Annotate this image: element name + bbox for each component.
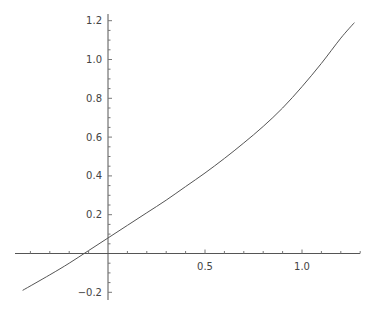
y-tick-label: 1.0	[86, 54, 102, 65]
series	[23, 23, 355, 291]
chart: 0.51.0−0.20.20.40.60.81.01.2	[0, 0, 372, 309]
y-tick-label: 1.2	[86, 15, 102, 26]
y-tick-label: 0.4	[86, 170, 102, 181]
axes	[15, 14, 360, 300]
ticks	[30, 21, 360, 293]
y-tick-label: 0.8	[86, 93, 102, 104]
y-tick-label: 0.2	[86, 209, 102, 220]
tick-labels: 0.51.0−0.20.20.40.60.81.01.2	[78, 15, 310, 298]
series-line-curve	[23, 23, 355, 291]
y-tick-label: 0.6	[86, 132, 102, 143]
y-tick-label: −0.2	[78, 287, 102, 298]
x-tick-label: 0.5	[197, 261, 213, 272]
x-tick-label: 1.0	[294, 261, 310, 272]
